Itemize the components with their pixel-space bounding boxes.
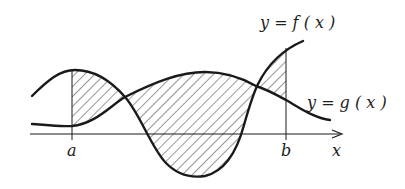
area-between-curves-diagram: y = f ( x ) y = g ( x ) a b x: [0, 0, 405, 189]
a-label: a: [67, 141, 77, 160]
g-curve-label: y = g ( x ): [306, 93, 387, 112]
f-curve-label: y = f ( x ): [259, 13, 335, 32]
x-axis-label: x: [332, 141, 341, 160]
b-label: b: [281, 141, 291, 160]
